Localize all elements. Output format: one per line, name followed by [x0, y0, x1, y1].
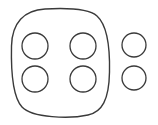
- background-rect: [0, 0, 158, 125]
- figure-canvas: Rounded square outline with four inner c…: [0, 0, 158, 125]
- line-drawing: [0, 0, 158, 125]
